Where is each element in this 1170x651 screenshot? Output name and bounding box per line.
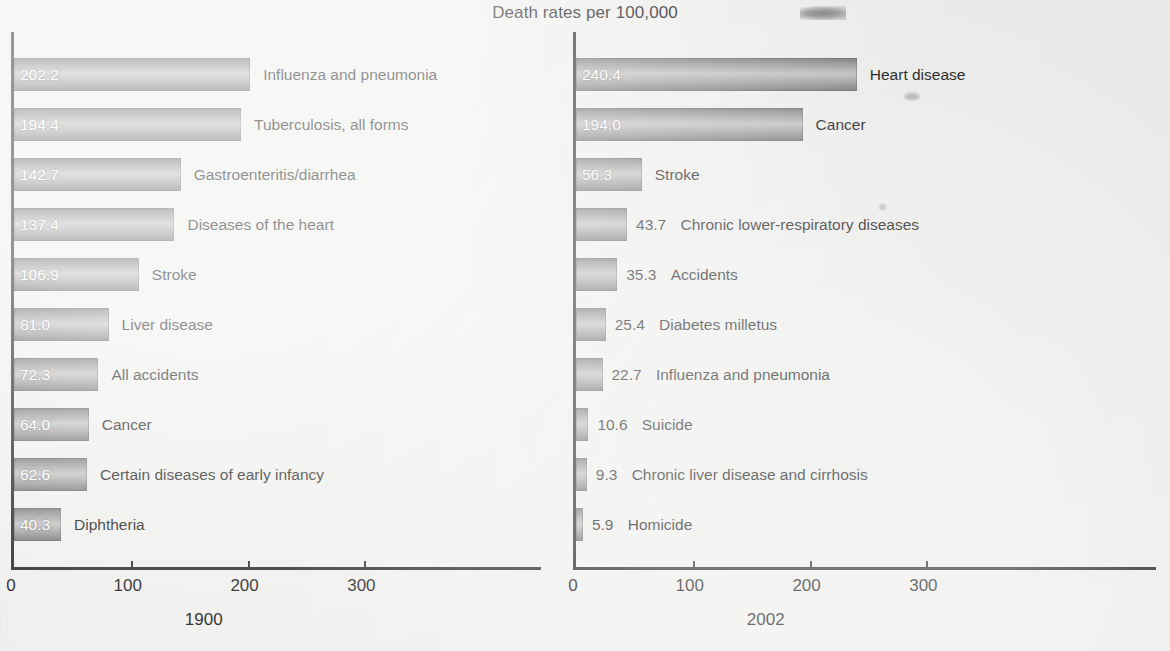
bar-value-label: 81.0 [20, 308, 50, 341]
axis-tick-label: 0 [6, 576, 15, 596]
bar-row: 202.2Influenza and pneumonia [14, 50, 541, 100]
bar-row: 62.6Certain diseases of early infancy [14, 450, 541, 500]
bar-category-label: Tuberculosis, all forms [254, 108, 408, 141]
axis-tick-label: 200 [792, 576, 820, 596]
chart-year-label: 1900 [185, 610, 223, 630]
chart-panel-2002: 240.4Heart disease194.0Cancer56.3Stroke4… [573, 32, 1156, 570]
bar-row: 25.4Diabetes milletus [576, 300, 1156, 350]
bar-row: 35.3Accidents [576, 250, 1156, 300]
bar-value-label: 106.9 [20, 258, 59, 291]
bar-value-label: 22.7 [612, 358, 642, 391]
bar-category-label: Stroke [152, 258, 197, 291]
axis-tick [364, 561, 366, 570]
axis-tick-label: 300 [909, 576, 937, 596]
bar-category-label: Suicide [642, 408, 693, 441]
bar-value-label: 194.0 [582, 108, 621, 141]
bar-category-label: Diphtheria [74, 508, 145, 541]
bar-category-label: Cancer [102, 408, 152, 441]
bar-row: 106.9Stroke [14, 250, 541, 300]
bar-value-label: 40.3 [20, 508, 50, 541]
axis-tick [248, 561, 250, 570]
bar-category-label: Liver disease [122, 308, 213, 341]
bar-value-label: 5.9 [592, 508, 614, 541]
bar-category-label: Homicide [628, 508, 693, 541]
chart-year-label: 2002 [747, 610, 785, 630]
bar-value-label: 25.4 [615, 308, 645, 341]
bar-row: 43.7Chronic lower-respiratory diseases [576, 200, 1156, 250]
bar-row: 22.7Influenza and pneumonia [576, 350, 1156, 400]
bar [576, 408, 588, 441]
bar-value-label: 9.3 [596, 458, 618, 491]
bar [576, 508, 583, 541]
bar-category-label: Chronic lower-respiratory diseases [680, 208, 919, 241]
bar-row: 5.9Homicide [576, 500, 1156, 550]
bar-category-label: Influenza and pneumonia [263, 58, 437, 91]
bar-row: 40.3Diphtheria [14, 500, 541, 550]
bar-row: 81.0Liver disease [14, 300, 541, 350]
bar-value-label: 56.3 [582, 158, 612, 191]
bar-row: 64.0Cancer [14, 400, 541, 450]
axis-tick-label: 300 [347, 576, 375, 596]
bar-category-label: Heart disease [870, 58, 966, 91]
bar-row: 142.7Gastroenteritis/diarrhea [14, 150, 541, 200]
bar-value-label: 35.3 [626, 258, 656, 291]
chart-panel-1900: 202.2Influenza and pneumonia194.4Tubercu… [11, 32, 541, 570]
bar-category-label: All accidents [111, 358, 198, 391]
axis-tick [693, 561, 695, 570]
bar [576, 358, 603, 391]
bar-value-label: 137.4 [20, 208, 59, 241]
bar-category-label: Influenza and pneumonia [656, 358, 830, 391]
bar [576, 308, 606, 341]
bar-category-label: Diabetes milletus [659, 308, 777, 341]
bar-row: 194.4Tuberculosis, all forms [14, 100, 541, 150]
bar-row: 9.3Chronic liver disease and cirrhosis [576, 450, 1156, 500]
bar-row: 194.0Cancer [576, 100, 1156, 150]
bar-category-label: Stroke [655, 158, 700, 191]
bar-category-label: Accidents [671, 258, 738, 291]
plot-area-2002: 240.4Heart disease194.0Cancer56.3Stroke4… [573, 32, 1156, 570]
bar-value-label: 194.4 [20, 108, 59, 141]
bar-value-label: 202.2 [20, 58, 59, 91]
bar [576, 208, 627, 241]
axis-tick-label: 100 [114, 576, 142, 596]
bar-row: 240.4Heart disease [576, 50, 1156, 100]
bar-row: 56.3Stroke [576, 150, 1156, 200]
axis-tick-label: 100 [676, 576, 704, 596]
page-title: Death rates per 100,000 [0, 3, 1170, 23]
axis-tick [810, 561, 812, 570]
axis-tick [131, 561, 133, 570]
axis-tick-label: 200 [230, 576, 258, 596]
axis-tick-label: 0 [568, 576, 577, 596]
bar-value-label: 142.7 [20, 158, 59, 191]
bar-value-label: 240.4 [582, 58, 621, 91]
bar-row: 10.6Suicide [576, 400, 1156, 450]
bar-value-label: 62.6 [20, 458, 50, 491]
bar [576, 458, 587, 491]
bar-value-label: 64.0 [20, 408, 50, 441]
axis-tick [926, 561, 928, 570]
bar-category-label: Diseases of the heart [187, 208, 333, 241]
bar-category-label: Certain diseases of early infancy [100, 458, 324, 491]
bar-value-label: 43.7 [636, 208, 666, 241]
bar-value-label: 10.6 [597, 408, 627, 441]
bar [576, 258, 617, 291]
plot-area-1900: 202.2Influenza and pneumonia194.4Tubercu… [11, 32, 541, 570]
bar-category-label: Chronic liver disease and cirrhosis [632, 458, 868, 491]
bar-row: 137.4Diseases of the heart [14, 200, 541, 250]
bar-value-label: 72.3 [20, 358, 50, 391]
bar-category-label: Gastroenteritis/diarrhea [194, 158, 356, 191]
bar-row: 72.3All accidents [14, 350, 541, 400]
bar-category-label: Cancer [816, 108, 866, 141]
